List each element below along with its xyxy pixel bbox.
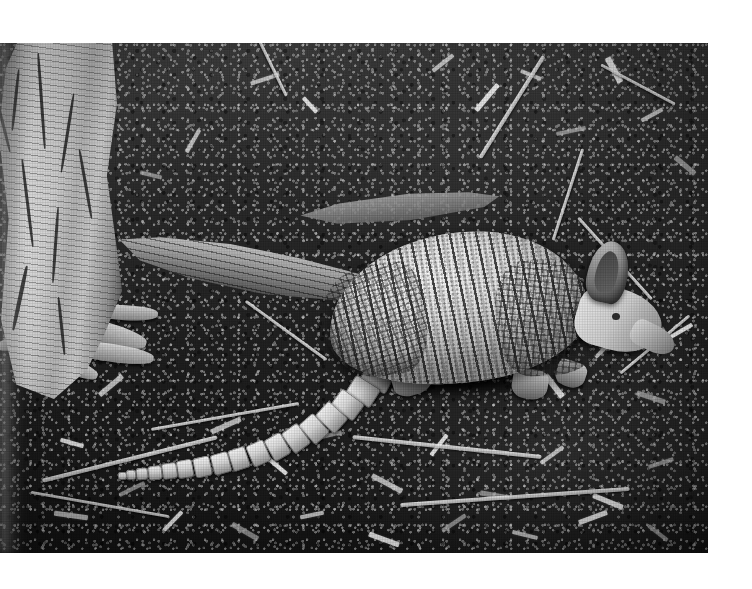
armadillo xyxy=(300,193,700,443)
armadillo-pelvic-shield xyxy=(315,258,434,383)
armadillo-snout xyxy=(627,316,680,360)
photograph-plate xyxy=(0,43,708,553)
armadillo-eye xyxy=(612,313,620,320)
photograph-page xyxy=(0,0,752,589)
